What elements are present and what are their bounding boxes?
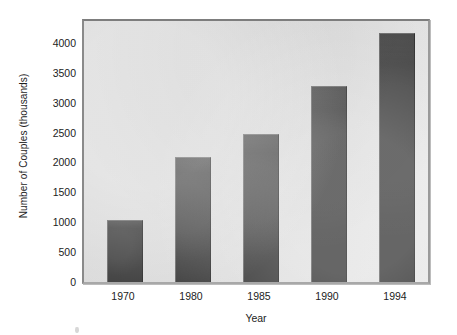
- plot-area: [82, 19, 430, 284]
- scan-artifact: [75, 327, 79, 333]
- x-tick-label-1980: 1980: [159, 290, 223, 302]
- y-tick-label-3000: 3000: [40, 98, 76, 109]
- bar-1985: [243, 134, 279, 282]
- y-tick-label-1000: 1000: [40, 217, 76, 228]
- bar-1970: [107, 220, 143, 282]
- bar-1994: [379, 33, 415, 282]
- bar-1980: [175, 157, 211, 282]
- y-tick-label-0: 0: [40, 277, 76, 288]
- x-tick-label-1994: 1994: [363, 290, 427, 302]
- bars-layer: [84, 21, 428, 282]
- y-axis-tick-labels: 4000 3500 3000 2500 2000 1500 1000 500 0: [40, 0, 76, 335]
- x-axis-title: Year: [82, 312, 430, 324]
- x-tick-label-1985: 1985: [227, 290, 291, 302]
- x-tick-label-1970: 1970: [91, 290, 155, 302]
- bar-chart-figure: Number of Couples (thousands) 4000 3500 …: [0, 0, 457, 335]
- x-tick-label-1990: 1990: [295, 290, 359, 302]
- y-tick-label-2500: 2500: [40, 128, 76, 139]
- y-tick-label-4000: 4000: [40, 38, 76, 49]
- y-tick-label-3500: 3500: [40, 68, 76, 79]
- bar-1990: [311, 86, 347, 282]
- y-tick-label-1500: 1500: [40, 187, 76, 198]
- y-tick-label-500: 500: [40, 247, 76, 258]
- x-axis-tick-labels: 1970 1980 1985 1990 1994: [82, 290, 430, 304]
- y-tick-label-2000: 2000: [40, 157, 76, 168]
- y-axis-title: Number of Couples (thousands): [13, 16, 35, 276]
